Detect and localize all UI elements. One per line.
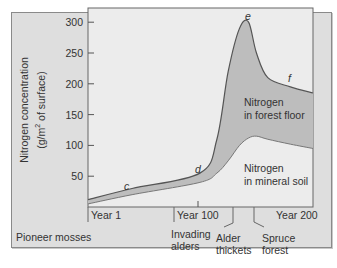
x-tick-label-year-200: Year 200 — [276, 209, 318, 221]
y-tick-label: 300 — [65, 16, 83, 28]
region-label-forest-floor-1: Nitrogen — [244, 96, 284, 108]
region-label-mineral-soil-2: in mineral soil — [244, 175, 308, 187]
y-tick-label: 100 — [65, 139, 83, 151]
point-label-c: c — [124, 180, 130, 192]
y-tick-label: 200 — [65, 78, 83, 90]
x-tick-label-year-100: Year 100 — [177, 209, 219, 221]
stage-label-spruce-forest: Spruce forest — [262, 232, 295, 256]
point-label-e: e — [245, 10, 251, 22]
y-tick-label: 50 — [71, 170, 83, 182]
stage-label-pioneer-mosses: Pioneer mosses — [16, 231, 91, 243]
stage-label-alder-thickets: Alder thickets — [216, 232, 252, 256]
leader-alder-thickets — [224, 207, 233, 227]
nitrogen-chart: 50100150200250300 Year 1 Year 100 Year 2… — [0, 0, 337, 268]
leader-spruce-forest — [254, 207, 264, 227]
region-label-forest-floor-2: in forest floor — [244, 109, 305, 121]
y-tick-label: 150 — [65, 109, 83, 121]
x-tick-label-year-1: Year 1 — [91, 209, 121, 221]
y-tick-label: 250 — [65, 47, 83, 59]
region-label-mineral-soil-1: Nitrogen — [244, 162, 284, 174]
stage-label-invading-alders: Invading alders — [171, 228, 211, 252]
